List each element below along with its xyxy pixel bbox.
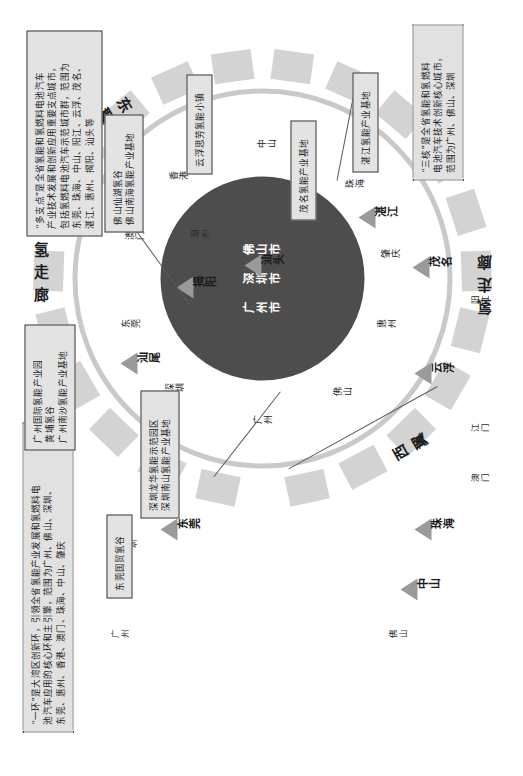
city-label-guangzhou: 广州 <box>110 628 130 640</box>
marker-yunfu-triangle <box>414 362 431 384</box>
marker-yunfu-label: 云浮 <box>430 360 454 376</box>
inner-city-foshan: 佛山 <box>332 384 352 397</box>
callout-maoming-base: 茂名氢能产业基地 <box>290 120 316 220</box>
callout-three-core-line-2: 电池汽车技术创新核心城市， <box>431 32 443 172</box>
callout-three-core-line-1: “三核”是全省氢能和氢燃料 <box>419 32 431 172</box>
callout-guangzhou-parks: 广州国际氢能产业园 黄埔氢谷 广州南沙氢能产业基地 <box>24 324 75 450</box>
marker-zhanjiang-triangle <box>358 206 375 228</box>
callout-foshan-parks-line-2: 佛山南海氢能产业基地 <box>123 122 135 224</box>
callout-foshan-parks: 佛山仙湖氢谷 佛山南海氢能产业基地 <box>104 114 143 232</box>
callout-zhanjiang-base: 湛江氢能产业基地 <box>352 72 378 172</box>
marker-zhuhai-triangle <box>414 518 431 540</box>
callout-one-ring-line-1: “一环”是大湾区创新环，引领全省氢能产业发展和氢燃料电 <box>29 430 41 724</box>
callout-yunfu-town: 云浮思劳氢能小镇 <box>186 74 212 174</box>
diagram-canvas: 氢 走 廊 东 翼 氢 走 廊 西 翼 广州 深圳 东莞 澳门 香港 中山 珠海… <box>0 0 523 776</box>
callout-one-ring-line-2: 池汽车应用的核心环和主引擎，范围为广州、佛山、深圳、 <box>41 430 53 724</box>
inner-city-hongkong: 香港 <box>168 168 188 181</box>
city-label-foshan: 佛山 <box>388 628 408 640</box>
marker-dongguan-label: 东莞 <box>176 516 200 532</box>
city-label-macau: 澳门 <box>470 472 490 484</box>
callout-multi-node-line-3: 包括氢燃料电池汽车示范城市群，范围为 <box>58 38 70 228</box>
callout-dongguan-park-line-1: 东莞国贸氢谷 <box>113 522 125 590</box>
callout-shenzhen-parks: 深圳龙华氢能示范园区 深圳南山氢能产业基地 <box>140 390 179 518</box>
inner-city-dongguan: 东莞 <box>120 316 140 329</box>
callout-multi-node-line-2: 产业技术发展和创新应用重要支点城市， <box>45 38 57 228</box>
marker-jieyang-label: 揭阳 <box>192 274 216 290</box>
marker-dongguan-triangle <box>160 518 177 540</box>
callout-guangzhou-parks-line-2: 黄埔氢谷 <box>43 332 55 442</box>
marker-zhuhai-label: 珠海 <box>430 516 454 532</box>
callout-guangzhou-parks-line-3: 广州南沙氢能产业基地 <box>56 332 68 442</box>
callout-multi-node-line-1: “多支点”是全省氢能和氢燃料电池汽车 <box>33 38 45 228</box>
callout-yunfu-town-line-1: 云浮思劳氢能小镇 <box>193 82 205 166</box>
callout-zhanjiang-base-line-1: 湛江氢能产业基地 <box>359 80 371 164</box>
city-label-chaozhou: 潮州 <box>190 228 210 240</box>
inner-city-zhuhai: 珠海 <box>344 176 364 189</box>
inner-city-huizhou: 惠州 <box>376 316 396 329</box>
inner-city-zhongshan: 中山 <box>256 136 276 149</box>
callout-guangzhou-parks-line-1: 广州国际氢能产业园 <box>31 332 43 442</box>
callout-dongguan-park: 东莞国贸氢谷 <box>106 514 132 598</box>
callout-multi-node: “多支点”是全省氢能和氢燃料电池汽车 产业技术发展和创新应用重要支点城市， 包括… <box>26 30 102 236</box>
marker-shanwei-label: 汕尾 <box>136 350 160 366</box>
callout-foshan-parks-line-1: 佛山仙湖氢谷 <box>111 122 123 224</box>
marker-maoming-label: 茂名 <box>428 254 452 270</box>
city-label-yangjiang: 阳江 <box>470 294 490 306</box>
city-label-jiangmen: 江门 <box>470 422 490 434</box>
callout-maoming-base-line-1: 茂名氢能产业基地 <box>297 128 309 212</box>
marker-zhongshan-triangle <box>400 578 417 600</box>
marker-zhanjiang-label: 湛江 <box>374 204 398 220</box>
callout-multi-node-line-5: 湛江、惠州、揭阳、汕头等 <box>83 38 95 228</box>
callout-multi-node-line-4: 东莞、珠海、中山、阳江、云浮、茂名、 <box>70 38 82 228</box>
marker-jieyang-triangle <box>176 276 193 298</box>
ring-word-east-corridor: 氢 走 廊 <box>30 242 51 302</box>
callout-one-ring-line-3: 东莞、惠州、香港、澳门、珠海、中山、肇庆 <box>54 430 66 724</box>
callout-shenzhen-parks-line-2: 深圳南山氢能产业基地 <box>159 398 171 510</box>
callout-one-ring: “一环”是大湾区创新环，引领全省氢能产业发展和氢燃料电 池汽车应用的核心环和主引… <box>22 422 73 732</box>
marker-zhongshan-label: 中山 <box>416 576 440 592</box>
callout-three-core: “三核”是全省氢能和氢燃料 电池汽车技术创新核心城市， 范围为广州、佛山、深圳 <box>412 24 463 180</box>
marker-shantou-triangle <box>244 254 261 276</box>
callout-three-core-line-3: 范围为广州、佛山、深圳 <box>444 32 456 172</box>
inner-city-zhaoqing: 肇庆 <box>380 246 400 259</box>
marker-shanwei-triangle <box>120 352 137 374</box>
marker-shantou-label: 汕头 <box>260 252 284 268</box>
callout-shenzhen-parks-line-1: 深圳龙华氢能示范园区 <box>147 398 159 510</box>
marker-maoming-triangle <box>412 256 429 278</box>
core-city-guangzhou: 广州市 <box>243 299 282 315</box>
